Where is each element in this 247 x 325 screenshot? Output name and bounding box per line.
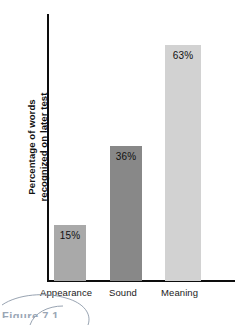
bar-appearance: 15% [54,225,86,281]
x-axis-label-sound: Sound [109,287,137,298]
plot-area: 15% 36% 63% [0,0,247,325]
x-axis-label-meaning: Meaning [161,287,198,298]
bar-sound: 36% [110,146,142,281]
bar-value-meaning: 63% [165,50,201,61]
x-axis-label-appearance: Appearance [40,287,92,298]
bar-value-appearance: 15% [54,230,86,241]
bar-chart-figure: Percentage of words recognized on later … [0,0,247,325]
bar-meaning: 63% [165,45,201,281]
bar-value-sound: 36% [110,151,142,162]
